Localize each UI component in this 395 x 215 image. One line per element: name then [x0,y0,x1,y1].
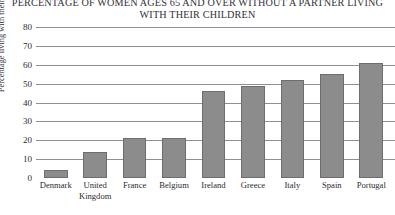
bars-layer [36,27,391,178]
y-axis-tick-label: 0 [28,173,33,183]
y-axis-tick-label: 10 [23,154,32,164]
x-axis-tick-label-line: Belgium [154,180,193,191]
bar[interactable] [44,170,68,178]
x-axis-tick-label: Belgium [154,180,193,191]
y-axis-tick-mark [391,140,395,141]
x-axis-tick-label: Spain [312,180,351,191]
bar[interactable] [320,74,344,178]
x-axis-tick-label-line: Italy [273,180,312,191]
y-axis-tick-label: 80 [23,22,32,32]
bar[interactable] [202,91,226,178]
x-axis-tick-label-line: Greece [233,180,272,191]
x-axis-tick-label: Portugal [352,180,391,191]
bar[interactable] [241,86,265,178]
bar[interactable] [359,63,383,178]
y-axis-tick-label: 60 [23,60,32,70]
y-axis-tick-label: 30 [23,116,32,126]
x-axis-tick-label: France [115,180,154,191]
y-axis-tick-mark [391,84,395,85]
y-axis-tick-mark [391,159,395,160]
plot-area: 01020304050607080 [36,27,391,178]
bar[interactable] [281,80,305,178]
y-axis-title: Percentage living with their children [0,0,11,109]
bar[interactable] [83,152,107,178]
x-axis-tick-label: UnitedKingdom [75,180,114,201]
x-axis-tick-label-line: Portugal [352,180,391,191]
y-axis-tick-label: 40 [23,98,32,108]
y-axis-tick-mark [391,46,395,47]
y-axis-tick-mark [391,121,395,122]
y-axis-tick-mark [391,27,395,28]
x-axis-tick-label-line: Kingdom [75,191,114,202]
x-axis-tick-label-line: Denmark [36,180,75,191]
x-axis-tick-label-line: France [115,180,154,191]
bar-chart: Percentage living with their children 01… [0,0,395,215]
y-axis-tick-label: 70 [23,41,32,51]
x-axis-tick-label-line: Ireland [194,180,233,191]
x-axis-tick-label: Ireland [194,180,233,191]
bar[interactable] [162,138,186,178]
x-axis-tick-label: Greece [233,180,272,191]
x-axis-labels: DenmarkUnitedKingdomFranceBelgiumIreland… [36,180,391,214]
y-axis-tick-label: 20 [23,135,32,145]
y-axis-tick-mark [391,103,395,104]
x-axis-tick-label-line: Spain [312,180,351,191]
y-axis-tick-mark [391,65,395,66]
bar[interactable] [123,138,147,178]
x-axis-tick-label-line: United [75,180,114,191]
x-axis-tick-label: Italy [273,180,312,191]
y-axis-tick-label: 50 [23,79,32,89]
x-axis-tick-label: Denmark [36,180,75,191]
